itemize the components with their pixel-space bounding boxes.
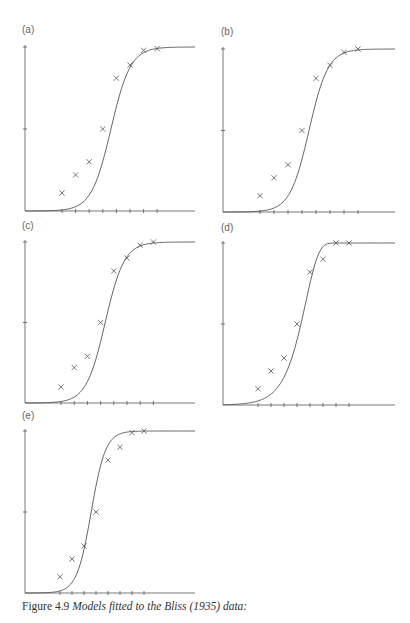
- chart-panel: (a): [0, 0, 205, 225]
- data-point-marker: [111, 268, 116, 273]
- plot-area: [205, 0, 410, 225]
- data-point-marker: [69, 556, 74, 561]
- data-point-marker: [57, 574, 62, 579]
- fitted-curve: [223, 243, 395, 405]
- data-point-marker: [281, 355, 286, 360]
- data-point-marker: [85, 354, 90, 359]
- data-point-marker: [87, 159, 92, 164]
- chart-panel: (b): [205, 0, 410, 225]
- data-point-marker: [307, 270, 312, 275]
- plot-area: [0, 0, 205, 225]
- data-point-marker: [285, 162, 290, 167]
- figure-number: Figure 4.9: [22, 600, 69, 612]
- data-point-marker: [58, 384, 63, 389]
- data-point-marker: [271, 175, 276, 180]
- data-point-marker: [320, 257, 325, 262]
- data-point-marker: [151, 239, 156, 244]
- data-point-marker: [299, 128, 304, 133]
- fitted-curve: [25, 242, 195, 403]
- chart-panel: (d): [205, 220, 410, 445]
- data-point-marker: [294, 321, 299, 326]
- fitted-curve: [25, 47, 195, 211]
- data-point-marker: [117, 445, 122, 450]
- data-point-marker: [98, 320, 103, 325]
- figure-caption-text: Models fitted to the Bliss (1935) data:: [72, 600, 247, 612]
- figure-caption: Figure 4.9 Models fitted to the Bliss (1…: [22, 600, 247, 612]
- data-point-marker: [355, 46, 360, 51]
- data-point-marker: [114, 76, 119, 81]
- data-point-marker: [255, 386, 260, 391]
- data-point-marker: [141, 48, 146, 53]
- plot-area: [0, 410, 205, 623]
- fitted-curve: [223, 49, 395, 212]
- data-point-marker: [257, 193, 262, 198]
- data-point-marker: [105, 458, 110, 463]
- chart-panel: (e): [0, 410, 205, 623]
- plot-area: [205, 220, 410, 445]
- fitted-curve: [25, 431, 195, 593]
- data-point-marker: [313, 76, 318, 81]
- data-point-marker: [72, 365, 77, 370]
- data-point-marker: [327, 63, 332, 68]
- data-point-marker: [59, 190, 64, 195]
- data-point-marker: [73, 172, 78, 177]
- data-point-marker: [93, 509, 98, 514]
- data-point-marker: [268, 368, 273, 373]
- data-point-marker: [129, 430, 134, 435]
- data-point-marker: [100, 126, 105, 131]
